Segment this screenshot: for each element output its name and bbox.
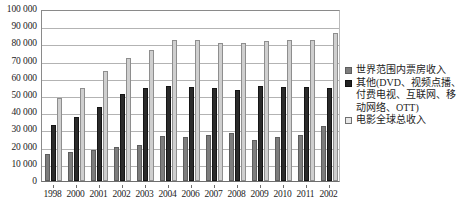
bar[interactable] [206,135,211,181]
bar-group [183,11,201,181]
bar[interactable] [258,86,263,181]
bar[interactable] [97,107,102,181]
x-tick-label: 2001 [89,189,107,200]
bar[interactable] [149,50,154,181]
bar[interactable] [183,137,188,181]
bar[interactable] [45,154,50,181]
bar[interactable] [333,33,338,181]
bar[interactable] [160,136,165,181]
y-tick-label: 40 000 [11,108,37,118]
x-tick-label: 2010 [273,189,291,200]
bar[interactable] [275,137,280,181]
bar-group [68,11,86,181]
bar[interactable] [51,125,56,181]
legend-swatch-icon-1 [345,80,352,87]
bar[interactable] [126,58,131,181]
y-tick-label: 10 000 [11,160,37,170]
plot-area [41,10,340,182]
legend-label-0: 世界范围内票房收入 [356,64,462,77]
x-tick-mark [237,185,238,188]
bar[interactable] [304,87,309,181]
x-tick-label: 2006 [181,189,199,200]
bar[interactable] [166,86,171,181]
x-tick-label: 2004 [158,189,176,200]
x-tick-label: 1998 [43,189,61,200]
x-tick-mark [122,185,123,188]
bar-group [206,11,224,181]
bar-group [298,11,316,181]
x-tick-mark [214,185,215,188]
x-tick-label: 2000 [66,189,84,200]
bar[interactable] [143,88,148,181]
bar[interactable] [91,150,96,181]
legend-entry-2[interactable]: 电影全球总收入 [345,114,462,127]
bar-group [275,11,293,181]
legend-swatch-icon-0 [345,67,352,74]
bar-group [252,11,270,181]
x-tick-mark [53,185,54,188]
bar[interactable] [103,71,108,181]
legend-label-2: 电影全球总收入 [356,114,462,127]
bar[interactable] [235,90,240,181]
bar[interactable] [114,147,119,181]
bar[interactable] [327,88,332,181]
bar-group [45,11,63,181]
bar-group [229,11,247,181]
x-tick-mark [145,185,146,188]
x-tick-mark [168,185,169,188]
bar[interactable] [264,41,269,181]
y-tick-label: 30 000 [11,126,37,136]
bar-chart: 100 00090 00080 00070 00060 00050 00040 … [0,0,462,216]
legend-swatch-icon-2 [345,117,352,124]
bar[interactable] [120,94,125,181]
x-tick-label: 2002 [319,189,337,200]
y-tick-label: 0 [32,177,37,187]
x-tick-mark [99,185,100,188]
y-tick-label: 60 000 [11,74,37,84]
bar[interactable] [80,88,85,181]
bar-group [321,11,339,181]
legend-label-1: 其他(DVD、视频点播、付费电视、互联网、移动网络、OTT) [356,77,462,115]
y-tick-label: 20 000 [11,143,37,153]
x-tick-mark [329,185,330,188]
x-axis: 1998200020012002200320042006200720082009… [41,185,340,201]
bars-layer [42,11,339,181]
x-tick-mark [306,185,307,188]
bar[interactable] [287,40,292,181]
x-tick-label: 2008 [227,189,245,200]
chart-legend: 世界范围内票房收入 其他(DVD、视频点播、付费电视、互联网、移动网络、OTT)… [345,64,462,127]
x-tick-label: 2007 [204,189,222,200]
bar-group [91,11,109,181]
x-tick-mark [191,185,192,188]
bar[interactable] [172,40,177,181]
bar[interactable] [137,145,142,181]
x-tick-mark [283,185,284,188]
x-tick-label: 2002 [112,189,130,200]
bar[interactable] [189,87,194,181]
bar[interactable] [68,152,73,181]
x-tick-label: 2003 [135,189,153,200]
y-tick-label: 80 000 [11,40,37,50]
legend-entry-1[interactable]: 其他(DVD、视频点播、付费电视、互联网、移动网络、OTT) [345,77,462,115]
bar[interactable] [57,98,62,181]
y-tick-label: 90 000 [11,22,37,32]
bar[interactable] [241,43,246,181]
bar[interactable] [218,43,223,181]
bar[interactable] [229,133,234,181]
bar[interactable] [252,140,257,181]
y-tick-label: 70 000 [11,57,37,67]
x-tick-label: 2011 [297,189,315,200]
y-tick-label: 100 000 [7,5,37,15]
bar[interactable] [74,117,79,181]
y-axis: 100 00090 00080 00070 00060 00050 00040 … [0,0,40,216]
bar[interactable] [195,40,200,181]
bar[interactable] [212,88,217,181]
bar[interactable] [281,87,286,181]
bar-group [137,11,155,181]
x-tick-label: 2009 [250,189,268,200]
bar-group [160,11,178,181]
bar[interactable] [298,135,303,181]
bar[interactable] [321,126,326,181]
legend-entry-0[interactable]: 世界范围内票房收入 [345,64,462,77]
bar[interactable] [310,40,315,181]
